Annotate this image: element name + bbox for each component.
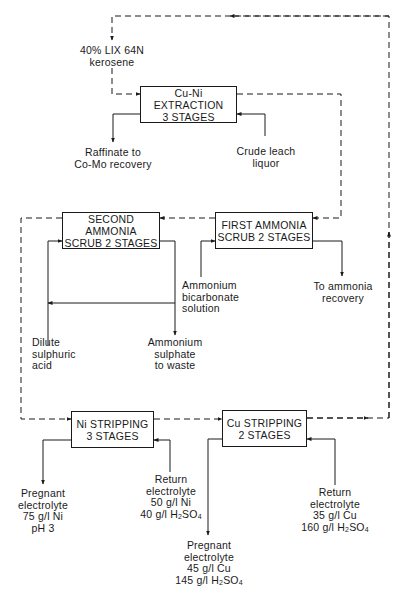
box-title: FIRST AMMONIA bbox=[221, 219, 306, 231]
cu-ni-extraction-box: Cu-Ni EXTRACTION 3 STAGES bbox=[140, 86, 237, 123]
cu-stripping-box: Cu STRIPPING 2 STAGES bbox=[222, 410, 307, 447]
aqueous-streams bbox=[43, 114, 342, 535]
box-title: Cu-Ni EXTRACTION bbox=[141, 87, 236, 111]
box-subtitle: 2 STAGES bbox=[238, 429, 290, 441]
ammonia-recovery-label: To ammonia recovery bbox=[305, 281, 381, 304]
raffinate-label: Raffinate to Co-Mo recovery bbox=[70, 147, 156, 170]
crude-leach-label: Crude leach liquor bbox=[228, 146, 304, 169]
cu-pregnant-electrolyte-label: Pregnant electrolyte 45 g/l Cu 145 g/l H… bbox=[171, 540, 247, 586]
box-title: SECOND AMMONIA bbox=[63, 213, 159, 237]
organic-feed-label: 40% LIX 64N kerosene bbox=[72, 45, 152, 68]
box-subtitle: 3 STAGES bbox=[86, 430, 138, 442]
box-subtitle: 3 STAGES bbox=[162, 111, 214, 123]
box-subtitle: SCRUB 2 STAGES bbox=[217, 231, 310, 243]
cu-return-electrolyte-label: Return electrolyte 35 g/l Cu 160 g/l H2S… bbox=[297, 487, 373, 533]
ni-pregnant-electrolyte-label: Pregnant electrolyte 75 g/l Ni pH 3 bbox=[13, 488, 73, 534]
ammonium-sulphate-label: Ammonium sulphate to waste bbox=[140, 337, 210, 372]
box-title: Ni STRIPPING bbox=[77, 418, 149, 430]
ammonium-bicarbonate-label: Ammonium bicarbonate solution bbox=[182, 280, 239, 315]
ni-return-electrolyte-label: Return electrolyte 50 g/l Ni 40 g/l H2SO… bbox=[133, 474, 209, 520]
dilute-acid-label: Dilute sulphuric acid bbox=[32, 337, 76, 372]
box-subtitle: SCRUB 2 STAGES bbox=[64, 237, 157, 249]
box-title: Cu STRIPPING bbox=[227, 417, 302, 429]
ni-stripping-box: Ni STRIPPING 3 STAGES bbox=[71, 411, 154, 448]
second-ammonia-scrub-box: SECOND AMMONIA SCRUB 2 STAGES bbox=[62, 212, 160, 249]
first-ammonia-scrub-box: FIRST AMMONIA SCRUB 2 STAGES bbox=[215, 212, 313, 249]
